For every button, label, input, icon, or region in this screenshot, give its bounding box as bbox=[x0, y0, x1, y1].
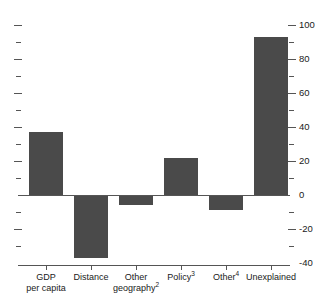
x-axis-tick bbox=[226, 265, 227, 270]
plot-area: 100806040200-20-40GDPper capitaDistanceO… bbox=[0, 0, 335, 308]
bar-chart: 100806040200-20-40GDPper capitaDistanceO… bbox=[0, 0, 335, 308]
y-axis-tick-right bbox=[289, 110, 294, 111]
y-axis-tick-right bbox=[289, 178, 294, 179]
y-axis-tick-left bbox=[14, 59, 22, 60]
y-axis-label: -20 bbox=[299, 224, 313, 234]
y-axis-tick-right bbox=[289, 212, 294, 213]
y-axis-label: 100 bbox=[299, 20, 315, 30]
y-axis-tick-left bbox=[14, 229, 22, 230]
zero-axis-line bbox=[18, 195, 290, 196]
y-axis-tick-left bbox=[16, 76, 21, 77]
y-axis-tick-left bbox=[16, 144, 21, 145]
y-axis-tick-right bbox=[288, 161, 296, 162]
y-axis-label: 40 bbox=[299, 122, 310, 132]
x-axis-line bbox=[18, 265, 290, 266]
y-axis-tick-left bbox=[16, 110, 21, 111]
y-axis-tick-right bbox=[288, 127, 296, 128]
y-axis-tick-right bbox=[289, 76, 294, 77]
y-axis-tick-left bbox=[14, 127, 22, 128]
y-axis-label: -40 bbox=[299, 258, 313, 268]
y-axis-tick-left bbox=[16, 212, 21, 213]
x-axis-tick bbox=[91, 265, 92, 270]
y-axis-tick-left bbox=[16, 42, 21, 43]
y-axis-label: 60 bbox=[299, 88, 310, 98]
y-axis-tick-right bbox=[288, 229, 296, 230]
bar-policy bbox=[164, 158, 198, 195]
y-axis-label: 80 bbox=[299, 54, 310, 64]
y-axis-tick-right bbox=[288, 59, 296, 60]
x-axis-tick bbox=[46, 265, 47, 270]
x-axis-tick bbox=[271, 265, 272, 270]
bar-other bbox=[209, 195, 243, 210]
y-axis-label: 0 bbox=[299, 190, 304, 200]
y-axis-tick-left bbox=[14, 161, 22, 162]
y-axis-tick-left bbox=[14, 93, 22, 94]
y-axis-tick-left bbox=[16, 246, 21, 247]
bar-other-geography bbox=[119, 195, 153, 205]
x-axis-tick bbox=[181, 265, 182, 270]
bar-distance bbox=[74, 195, 108, 258]
bar-gdp-per-capita bbox=[29, 132, 63, 195]
y-axis-tick-right bbox=[288, 93, 296, 94]
y-axis-tick-right bbox=[289, 246, 294, 247]
x-axis-tick bbox=[136, 265, 137, 270]
y-axis-tick-left bbox=[14, 25, 22, 26]
y-axis-label: 20 bbox=[299, 156, 310, 166]
x-axis-category-label: Unexplained bbox=[231, 272, 311, 283]
y-axis-tick-right bbox=[289, 42, 294, 43]
y-axis-tick-right bbox=[288, 25, 296, 26]
y-axis-tick-right bbox=[289, 144, 294, 145]
bar-unexplained bbox=[254, 37, 288, 195]
y-axis-tick-left bbox=[16, 178, 21, 179]
